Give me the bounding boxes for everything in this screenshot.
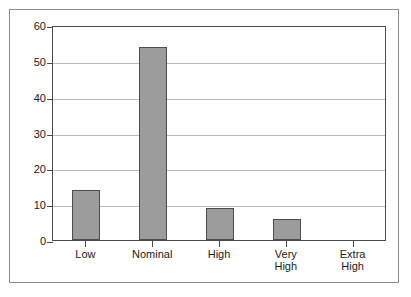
x-tick-mark (353, 241, 354, 247)
x-tick-label: Nominal (132, 248, 172, 260)
x-axis-tick-labels: LowNominalHighVeryHighExtraHigh (52, 248, 386, 284)
x-tick-label-line: Very (274, 248, 297, 260)
x-tick-label-line: High (208, 248, 231, 260)
x-tick-label: Low (75, 248, 95, 260)
y-tick-mark (47, 63, 53, 64)
y-tick-label: 0 (40, 236, 46, 247)
y-tick-label: 10 (34, 200, 46, 211)
y-tick-mark (47, 99, 53, 100)
x-tick-mark (286, 241, 287, 247)
x-tick-label: ExtraHigh (340, 248, 366, 272)
y-tick-label: 20 (34, 164, 46, 175)
x-tick-mark (152, 241, 153, 247)
y-tick-label: 60 (34, 21, 46, 32)
x-tick-mark (85, 241, 86, 247)
bar-high (206, 208, 234, 240)
x-tick-label: VeryHigh (274, 248, 297, 272)
x-tick-label-line: Nominal (132, 248, 172, 260)
bar-low (72, 190, 100, 240)
x-tick-label-line: Low (75, 248, 95, 260)
bar-nominal (139, 47, 167, 241)
gridline (53, 99, 385, 100)
gridline (53, 135, 385, 136)
chart-figure: 0102030405060 LowNominalHighVeryHighExtr… (9, 9, 399, 283)
x-tick-label: High (208, 248, 231, 260)
plot-area (52, 26, 386, 241)
x-tick-label-line: High (274, 260, 297, 272)
y-tick-mark (47, 135, 53, 136)
gridline (53, 170, 385, 171)
y-tick-label: 40 (34, 92, 46, 103)
y-tick-label: 50 (34, 56, 46, 67)
bar-very-high (273, 219, 301, 241)
y-tick-mark (47, 27, 53, 28)
y-tick-mark (47, 206, 53, 207)
y-tick-mark (47, 170, 53, 171)
x-tick-label-line: High (340, 260, 366, 272)
y-axis-tick-labels: 0102030405060 (10, 26, 46, 241)
x-tick-mark (219, 241, 220, 247)
gridline (53, 63, 385, 64)
x-tick-label-line: Extra (340, 248, 366, 260)
y-tick-label: 30 (34, 128, 46, 139)
